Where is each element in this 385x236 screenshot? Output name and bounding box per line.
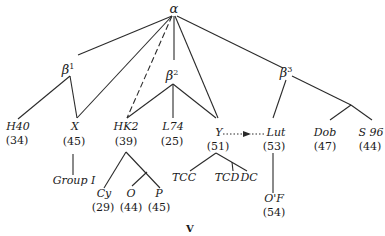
- edge-beta1-x: [70, 76, 77, 118]
- edge-hk2-p: [126, 152, 160, 188]
- node-o-count: (44): [120, 201, 143, 214]
- node-lut-count: (53): [263, 140, 286, 153]
- edge-alpha-x: [77, 16, 172, 118]
- node-tcc-name: TCC: [172, 171, 197, 184]
- node-h40-name: H40: [5, 120, 30, 133]
- edge-split-o: [132, 172, 147, 186]
- edge-beta1-h40: [18, 76, 70, 119]
- node-s96-name: S 96: [358, 126, 383, 139]
- node-alpha: α: [170, 1, 179, 16]
- node-x-name: X: [70, 120, 80, 133]
- node-beta3: β3: [279, 65, 293, 80]
- node-y-count: (51): [207, 140, 230, 153]
- node-of-name: O'F: [264, 192, 284, 205]
- edge-beta3-split: [292, 76, 351, 105]
- node-o-name: O: [126, 187, 135, 200]
- node-p-name: P: [154, 187, 163, 200]
- node-tcd-name: TCD: [215, 171, 240, 184]
- edge-beta3-lut: [273, 80, 286, 118]
- node-p-count: (45): [148, 201, 171, 214]
- edge-beta2-y: [173, 84, 216, 118]
- node-cy-count: (29): [92, 201, 115, 214]
- node-of-count: (54): [263, 206, 286, 219]
- node-y-name: Y: [215, 126, 224, 139]
- node-cy-name: Cy: [97, 187, 112, 200]
- node-dc-name: DC: [239, 171, 258, 184]
- node-dob-count: (47): [314, 140, 337, 153]
- figure-caption: V: [185, 223, 194, 234]
- node-hk2-count: (39): [115, 135, 138, 148]
- node-beta2: β2: [165, 68, 179, 83]
- edge-hk2-cy: [104, 152, 126, 188]
- tree-diagram: α β1 β2 β3 H40 (34) X (45) HK2 (39) L74 …: [0, 0, 385, 236]
- node-lut-name: Lut: [266, 126, 286, 139]
- edge-y-tcc: [190, 153, 216, 171]
- edge-split-dob: [330, 105, 351, 120]
- node-h40-count: (34): [6, 134, 29, 147]
- edge-split-s96: [351, 105, 372, 120]
- node-s96-count: (44): [359, 140, 382, 153]
- edge-y-dc: [216, 153, 247, 171]
- node-group1-name: Group I: [53, 174, 96, 187]
- edge-alpha-beta3: [177, 16, 283, 68]
- node-beta1: β1: [61, 62, 75, 77]
- node-hk2-name: HK2: [113, 120, 139, 133]
- edges: [18, 16, 372, 193]
- node-l74-count: (25): [161, 135, 184, 148]
- node-dob-name: Dob: [313, 126, 336, 139]
- node-x-count: (45): [63, 135, 86, 148]
- node-l74-name: L74: [161, 120, 183, 133]
